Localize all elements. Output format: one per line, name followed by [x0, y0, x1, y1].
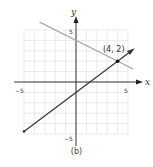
dark-line-end-dot [23, 130, 26, 133]
tick-label-x-neg5: −5 [15, 87, 24, 94]
y-axis-label: y [70, 7, 77, 17]
intersection-point [116, 59, 120, 63]
x-axis-arrow-icon [136, 80, 143, 85]
figure-caption: (b) [0, 147, 153, 156]
y-axis-arrow-icon [74, 16, 79, 23]
tick-label-x-5: 5 [124, 87, 128, 94]
x-axis-label: x [145, 77, 150, 87]
coordinate-plane: x y −5 5 5 −5 (4, 2) [0, 0, 153, 167]
tick-label-y-5: 5 [69, 28, 73, 35]
point-label: (4, 2) [103, 45, 125, 54]
tick-label-y-neg5: −5 [64, 135, 73, 142]
